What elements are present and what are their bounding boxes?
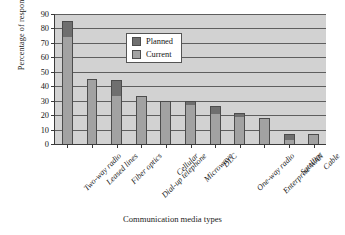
stacked-bar[interactable] [87, 79, 98, 144]
bar-segment-planned [111, 80, 122, 96]
bar-slot [203, 14, 228, 144]
bar-segment-current [111, 96, 122, 144]
y-axis-title: Percentage of respondents [16, 0, 28, 90]
x-axis-tick [215, 144, 216, 148]
bar-segment-current [308, 134, 319, 144]
stacked-bar[interactable] [234, 113, 245, 144]
bar-segment-current [62, 37, 73, 144]
x-axis-title: Communication media types [0, 214, 345, 224]
y-axis-tick-label: 20 [41, 111, 49, 120]
stacked-bar[interactable] [284, 134, 295, 144]
stacked-bar[interactable] [185, 101, 196, 144]
legend-label-current: Current [146, 50, 172, 59]
y-axis-tick-label: 10 [41, 125, 49, 134]
plot-area: 0102030405060708090 [54, 14, 326, 145]
x-axis-tick [117, 144, 118, 148]
bar-segment-current [234, 117, 245, 144]
bar-segment-current [185, 105, 196, 144]
plot-area-wrapper: 0102030405060708090 Planned Current [54, 14, 326, 145]
y-axis-tick-label: 90 [41, 10, 49, 19]
x-axis-tick [314, 144, 315, 148]
bar-slot [55, 14, 80, 144]
y-axis-tick-label: 70 [41, 38, 49, 47]
bar-series-group [55, 14, 326, 144]
bar-segment-current [259, 118, 270, 144]
legend-swatch-planned-icon [132, 37, 141, 46]
bar-segment-planned [62, 21, 73, 37]
chart-legend: Planned Current [126, 33, 182, 63]
bar-segment-current [160, 101, 171, 144]
legend-item-planned: Planned [132, 37, 173, 46]
legend-item-current: Current [132, 50, 173, 59]
legend-label-planned: Planned [146, 37, 173, 46]
bar-slot [277, 14, 302, 144]
stacked-bar[interactable] [210, 106, 221, 144]
x-axis-tick [166, 144, 167, 148]
stacked-bar[interactable] [111, 80, 122, 144]
legend-swatch-current-icon [132, 50, 141, 59]
x-axis-tick [191, 144, 192, 148]
bar-segment-planned [210, 106, 221, 113]
x-axis-tick-labels: Two-way radioLeased linesFiber opticsDia… [54, 150, 326, 206]
x-axis-tick [67, 144, 68, 148]
bar-segment-current [136, 96, 147, 144]
y-axis-tick [51, 144, 55, 145]
bar-slot [80, 14, 105, 144]
stacked-bar[interactable] [308, 134, 319, 144]
stacked-bar[interactable] [259, 118, 270, 144]
x-axis-tick [141, 144, 142, 148]
stacked-bar[interactable] [160, 101, 171, 144]
x-axis-tick [240, 144, 241, 148]
stacked-bar[interactable] [136, 96, 147, 144]
x-axis-tick-label: Dial-up telephone [159, 151, 207, 199]
x-axis-tick-label: Satellite [298, 151, 323, 176]
y-axis-tick-label: 80 [41, 24, 49, 33]
bar-slot [301, 14, 326, 144]
y-axis-tick-label: 60 [41, 53, 49, 62]
x-axis-tick-label: Cable [321, 151, 341, 171]
x-axis-tick [264, 144, 265, 148]
y-axis-tick-label: 40 [41, 82, 49, 91]
stacked-bar[interactable] [62, 21, 73, 144]
bar-slot [227, 14, 252, 144]
y-axis-tick-label: 30 [41, 96, 49, 105]
y-axis-tick-label: 50 [41, 67, 49, 76]
bar-segment-current [210, 114, 221, 144]
y-axis-tick-label: 0 [45, 140, 49, 149]
bar-chart-figure: Percentage of respondents 01020304050607… [0, 0, 345, 235]
x-axis-tick [289, 144, 290, 148]
bar-slot [252, 14, 277, 144]
bar-segment-current [87, 79, 98, 144]
x-axis-tick [92, 144, 93, 148]
